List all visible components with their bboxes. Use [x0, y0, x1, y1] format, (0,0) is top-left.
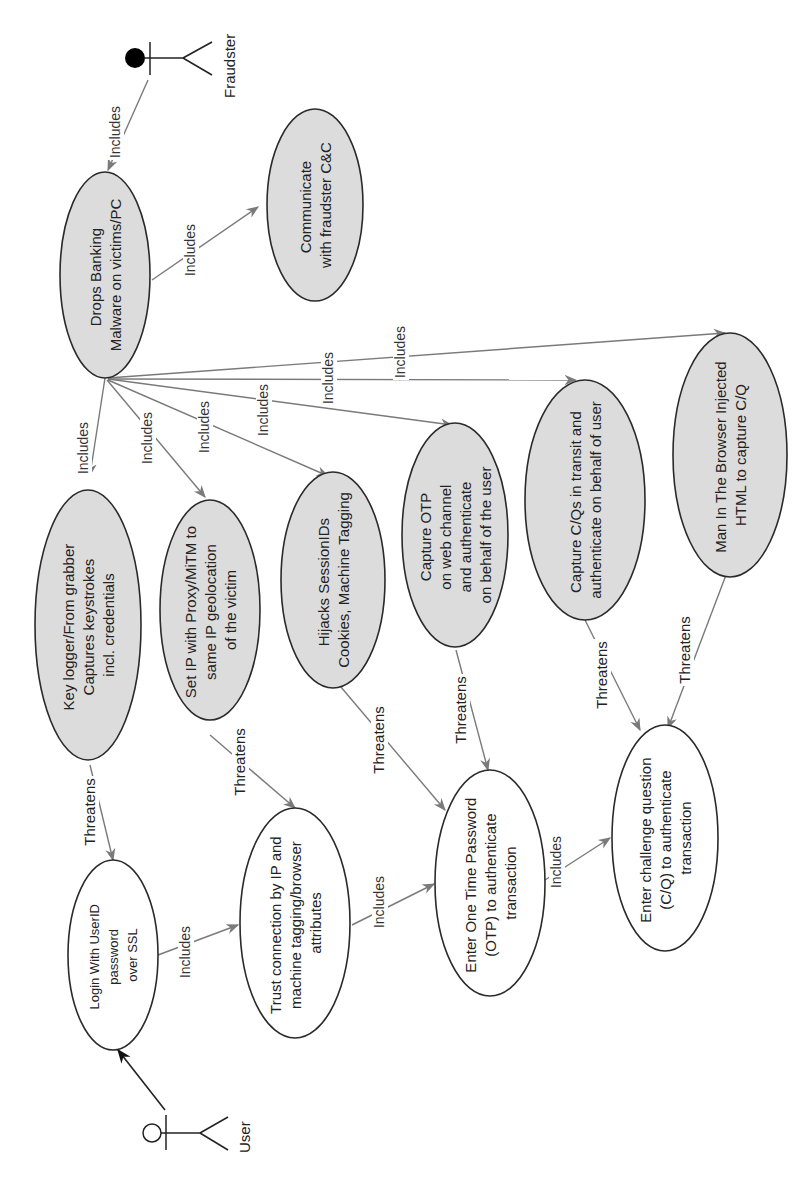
actor-fraudster: Fraudster — [125, 34, 238, 98]
usecase-capture-otp: Capture OTP on web channel and authentic… — [402, 423, 508, 647]
usecase-set-ip-proxy: Set IP with Proxy/MiTM to same IP geoloc… — [160, 500, 260, 720]
usecase-line: Login With UserID — [87, 904, 102, 1009]
usecase-line: Hijacks SessionIDs — [315, 518, 332, 646]
actor-user-label: User — [236, 1121, 253, 1153]
usecase-line: authenticate on behalf of user — [587, 401, 604, 599]
usecase-line: Key logger/From grabber — [60, 544, 77, 711]
usecase-line: password — [106, 929, 121, 985]
edge-label-threatens: Threatens — [81, 778, 98, 846]
usecase-line: of the victim — [222, 570, 239, 650]
use-case-diagram: Fraudster User Drops Banking Malware on … — [0, 0, 809, 1192]
edge-hijacks-enterotp — [335, 680, 445, 810]
edge-label-includes: Includes — [255, 384, 271, 436]
edge-label-includes: Includes — [139, 412, 155, 464]
edge-label-includes: Includes — [182, 224, 198, 276]
edge-label-threatens: Threatens — [370, 706, 387, 774]
edge-label-includes: Includes — [320, 352, 336, 404]
usecase-drops-malware: Drops Banking Malware on victims/PC — [60, 172, 150, 378]
usecase-line: Enter challenge question — [637, 758, 654, 923]
usecase-line: (OTP) to authenticate — [482, 813, 499, 956]
usecase-line: Capture OTP — [417, 493, 434, 581]
usecase-line: over SSL — [125, 928, 140, 981]
usecase-line: attributes — [307, 892, 324, 954]
edge-drops-communicate — [152, 207, 258, 280]
usecase-line: Malware on victims/PC — [107, 199, 124, 352]
edge-setip-trust — [210, 735, 295, 808]
edge-drops-keylogger — [90, 378, 105, 475]
edge-label-includes: Includes — [548, 836, 564, 888]
edge-label-includes: Includes — [107, 106, 123, 158]
usecase-trust-connection: Trust connection by IP and machine taggi… — [240, 808, 350, 1038]
usecase-line: machine tagging/browser — [287, 841, 304, 1009]
edge-label-includes: Includes — [196, 401, 212, 453]
usecase-mitb: Man In The Browser Injected HTML to capt… — [673, 333, 787, 577]
usecase-line: (C/Q) to authenticate — [657, 770, 674, 909]
edge-label-includes: Includes — [392, 326, 408, 378]
usecase-line: Cookies, Machine Tagging — [335, 492, 352, 668]
edge-drops-mitb — [108, 333, 725, 378]
usecase-line: incl. credentials — [100, 573, 117, 676]
usecase-line: Captures keystrokes — [80, 559, 97, 696]
usecase-hijack-session: Hijacks SessionIDs Cookies, Machine Tagg… — [281, 472, 385, 688]
usecase-line: and authenticate — [457, 482, 474, 593]
edge-label-threatens: Threatens — [452, 676, 469, 744]
usecase-line: Set IP with Proxy/MiTM to — [182, 526, 199, 698]
usecase-line: on behalf of the user — [477, 467, 494, 604]
usecase-line: Capture C/Qs in transit and — [567, 411, 584, 593]
usecase-line: HTML to capture C/Q — [732, 384, 749, 526]
usecase-line: on web channel — [437, 485, 454, 590]
usecase-line: Communicate — [297, 161, 314, 254]
usecase-communicate-cc: Communicate with fraudster C&C — [267, 109, 363, 301]
usecase-key-logger: Key logger/From grabber Captures keystro… — [35, 490, 141, 760]
usecase-enter-cq: Enter challenge question (C/Q) to authen… — [612, 725, 718, 951]
edge-login-trust — [158, 925, 238, 955]
edge-label-threatens: Threatens — [231, 728, 248, 796]
usecase-enter-otp: Enter One Time Password (OTP) to authent… — [435, 770, 545, 996]
usecase-login: Login With UserID password over SSL — [68, 860, 158, 1050]
usecase-line: Trust connection by IP and — [267, 836, 284, 1014]
edge-drops-capturecq — [108, 379, 576, 380]
edge-label-includes: Includes — [371, 876, 387, 928]
actor-user: User — [143, 1115, 253, 1153]
usecase-line: Man In The Browser Injected — [712, 361, 729, 552]
edge-label-includes: Includes — [177, 926, 193, 978]
edge-label-includes: Includes — [75, 422, 91, 474]
usecase-capture-cq: Capture C/Qs in transit and authenticate… — [525, 380, 645, 620]
actor-fraudster-label: Fraudster — [221, 34, 238, 98]
usecase-line: same IP geolocation — [202, 544, 219, 680]
usecase-line: transaction — [677, 801, 694, 874]
edge-trust-enterotp — [352, 884, 434, 925]
edge-label-threatens: Threatens — [593, 641, 610, 709]
edge-user-login — [118, 1050, 165, 1110]
usecase-line: transaction — [502, 846, 519, 919]
edge-label-threatens: Threatens — [676, 616, 693, 684]
actor-hollow-head-icon — [143, 1115, 228, 1150]
usecase-line: Enter One Time Password — [462, 798, 479, 973]
usecase-line: Drops Banking — [87, 228, 104, 326]
usecase-line: with fraudster C&C — [317, 142, 334, 269]
actor-filled-head-icon — [125, 42, 212, 75]
